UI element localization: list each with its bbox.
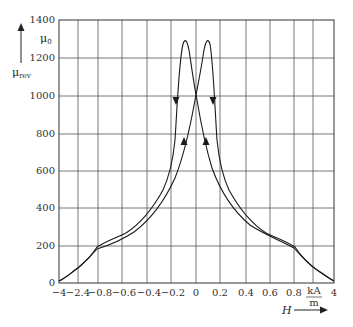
svg-text:kA: kA xyxy=(307,285,321,296)
arrow-up-icon xyxy=(18,23,25,31)
y-tick: 1400 xyxy=(30,14,55,25)
series-left-peak xyxy=(59,41,334,281)
x-tick: −0.6 xyxy=(112,287,136,298)
x-tick: −0.2 xyxy=(161,287,185,298)
arrow-up-icon xyxy=(203,137,210,145)
y-tick: 1200 xyxy=(30,52,55,63)
curves xyxy=(59,41,334,281)
arrow-down-icon xyxy=(210,97,217,105)
plot-frame xyxy=(59,20,334,283)
svg-text:H: H xyxy=(281,304,292,317)
y-tick: 400 xyxy=(36,202,55,213)
x-tick: −2.4 xyxy=(66,287,90,298)
grid xyxy=(59,20,334,283)
y-tick: 200 xyxy=(36,240,55,251)
x-tick: 0.4 xyxy=(238,287,254,298)
y-tick: 800 xyxy=(36,128,55,139)
y-axis-label: μrev xyxy=(12,23,31,80)
x-tick: 0.2 xyxy=(212,287,228,298)
x-tick: −0.8 xyxy=(88,287,112,298)
svg-text:m: m xyxy=(309,297,319,308)
y-tick: 1000 xyxy=(30,90,55,101)
mu0-label: μ0 xyxy=(40,32,52,46)
x-tick: 4 xyxy=(331,287,337,298)
svg-text:μrev: μrev xyxy=(12,66,31,80)
reversible-permeability-chart: 0 200 400 600 800 1000 1200 1400 −4 −2.4… xyxy=(0,0,353,327)
x-axis-ticks: −4 −2.4 −0.8 −0.6 −0.4 −0.2 0 0.2 0.4 0.… xyxy=(52,287,338,298)
x-tick: −0.4 xyxy=(137,287,161,298)
y-axis-ticks: 0 200 400 600 800 1000 1200 1400 xyxy=(30,14,55,288)
x-tick: −4 xyxy=(52,287,67,298)
y-tick: 600 xyxy=(36,165,55,176)
arrow-down-icon xyxy=(173,97,180,105)
x-tick: 0.8 xyxy=(286,287,302,298)
arrow-right-icon xyxy=(320,307,328,314)
x-axis-label: H xyxy=(281,304,328,317)
x-tick: 0.6 xyxy=(262,287,278,298)
x-tick: 0 xyxy=(193,287,199,298)
x-unit-label: kA m xyxy=(306,285,322,308)
